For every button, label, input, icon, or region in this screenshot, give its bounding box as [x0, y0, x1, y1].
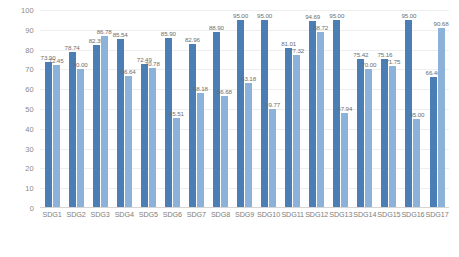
- bar-group-sdg17: 66.4090.68: [425, 10, 449, 208]
- bar-value-label: 71.75: [385, 58, 400, 65]
- bar-value-label: 90.68: [434, 20, 449, 27]
- bar-sdg6-series1: 85.90: [165, 38, 172, 208]
- bar-value-label: 49.77: [265, 101, 280, 108]
- x-axis-tick-sdg9: SDG9: [233, 210, 257, 226]
- y-axis-tick-80: 80: [25, 45, 34, 54]
- bar-value-label: 95.00: [329, 12, 344, 19]
- bar-sdg5-series2: 70.78: [149, 68, 156, 208]
- bar-sdg13-series2: 47.94: [341, 113, 348, 208]
- y-axis-tick-100: 100: [21, 6, 34, 15]
- bar-value-label: 88.90: [209, 24, 224, 31]
- bar-value-label: 63.18: [241, 75, 256, 82]
- bar-group-sdg7: 82.9658.18: [184, 10, 208, 208]
- y-axis-tick-30: 30: [25, 144, 34, 153]
- bar-group-sdg15: 75.1671.75: [377, 10, 401, 208]
- bar-sdg10-series1: 95.00: [261, 20, 268, 208]
- bar-value-label: 58.18: [193, 85, 208, 92]
- x-axis-tick-sdg6: SDG6: [160, 210, 184, 226]
- bar-value-label: 70.00: [73, 61, 88, 68]
- bar-group-sdg6: 85.9045.51: [160, 10, 184, 208]
- bar-value-label: 45.51: [169, 110, 184, 117]
- bar-sdg6-series2: 45.51: [173, 118, 180, 208]
- x-axis-line: [40, 207, 449, 208]
- bar-value-label: 75.42: [353, 51, 368, 58]
- y-axis-tick-0: 0: [30, 204, 34, 213]
- x-axis-tick-labels: SDG1SDG2SDG3SDG4SDG5SDG6SDG7SDG8SDG9SDG1…: [40, 210, 449, 226]
- bar-group-sdg3: 82.3986.78: [88, 10, 112, 208]
- bar-group-sdg13: 95.0047.94: [329, 10, 353, 208]
- bar-value-label: 88.72: [313, 24, 328, 31]
- bar-sdg11-series2: 77.32: [293, 55, 300, 208]
- bar-group-sdg14: 75.4270.00: [353, 10, 377, 208]
- bar-sdg3-series1: 82.39: [93, 45, 100, 208]
- y-axis-tick-90: 90: [25, 25, 34, 34]
- x-axis-tick-sdg11: SDG11: [281, 210, 305, 226]
- bar-sdg8-series1: 88.90: [213, 32, 220, 208]
- bar-sdg17-series1: 66.40: [430, 77, 437, 208]
- bar-sdg2-series2: 70.00: [77, 69, 84, 208]
- y-axis-tick-20: 20: [25, 164, 34, 173]
- bar-value-label: 85.90: [161, 30, 176, 37]
- bar-group-sdg8: 88.9056.68: [208, 10, 232, 208]
- bar-sdg10-series2: 49.77: [269, 109, 276, 208]
- bar-value-label: 85.54: [113, 31, 128, 38]
- bar-group-sdg4: 85.5466.64: [112, 10, 136, 208]
- bar-sdg7-series1: 82.96: [189, 44, 196, 208]
- x-axis-tick-sdg14: SDG14: [353, 210, 377, 226]
- bar-sdg16-series2: 45.00: [413, 119, 420, 208]
- bar-group-sdg2: 78.7470.00: [64, 10, 88, 208]
- bar-sdg13-series1: 95.00: [333, 20, 340, 208]
- bar-sdg2-series1: 78.74: [69, 52, 76, 208]
- bar-value-label: 70.78: [145, 60, 160, 67]
- x-axis-tick-sdg15: SDG15: [377, 210, 401, 226]
- bar-sdg3-series2: 86.78: [101, 36, 108, 208]
- bar-value-label: 78.74: [65, 44, 80, 51]
- bar-sdg17-series2: 90.68: [438, 28, 445, 208]
- x-axis-tick-sdg8: SDG8: [208, 210, 232, 226]
- x-axis-tick-sdg17: SDG17: [425, 210, 449, 226]
- x-axis-tick-sdg1: SDG1: [40, 210, 64, 226]
- bar-group-sdg16: 95.0045.00: [401, 10, 425, 208]
- bar-sdg14-series2: 70.00: [365, 69, 372, 208]
- x-axis-tick-sdg12: SDG12: [305, 210, 329, 226]
- bar-value-label: 82.96: [185, 36, 200, 43]
- bar-group-sdg11: 81.0177.32: [281, 10, 305, 208]
- x-axis-tick-sdg16: SDG16: [401, 210, 425, 226]
- bar-sdg8-series2: 56.68: [221, 96, 228, 208]
- bar-value-label: 81.01: [281, 40, 296, 47]
- bar-group-sdg5: 72.4970.78: [136, 10, 160, 208]
- bar-sdg15-series1: 75.16: [381, 59, 388, 208]
- bar-value-label: 45.00: [409, 111, 424, 118]
- bar-sdg11-series1: 81.01: [285, 48, 292, 208]
- bar-sdg12-series2: 88.72: [317, 32, 324, 208]
- x-axis-tick-sdg13: SDG13: [329, 210, 353, 226]
- bar-sdg5-series1: 72.49: [141, 64, 148, 208]
- bar-sdg1-series1: 73.90: [45, 62, 52, 208]
- bar-value-label: 72.45: [49, 57, 64, 64]
- bar-chart: 0102030405060708090100 73.9072.4578.7470…: [0, 0, 459, 257]
- bar-value-label: 77.32: [289, 47, 304, 54]
- bar-group-sdg10: 95.0049.77: [257, 10, 281, 208]
- bar-value-label: 70.00: [361, 61, 376, 68]
- bar-sdg9-series1: 95.00: [237, 20, 244, 208]
- bar-group-sdg9: 95.0063.18: [233, 10, 257, 208]
- x-axis-tick-sdg4: SDG4: [112, 210, 136, 226]
- y-axis: 0102030405060708090100: [0, 10, 38, 208]
- bar-value-label: 66.64: [121, 68, 136, 75]
- bar-sdg4-series2: 66.64: [125, 76, 132, 208]
- y-axis-tick-70: 70: [25, 65, 34, 74]
- bar-sdg1-series2: 72.45: [53, 65, 60, 208]
- bar-group-sdg1: 73.9072.45: [40, 10, 64, 208]
- y-axis-tick-60: 60: [25, 85, 34, 94]
- x-axis-tick-sdg10: SDG10: [257, 210, 281, 226]
- x-axis-tick-sdg7: SDG7: [184, 210, 208, 226]
- x-axis-tick-sdg5: SDG5: [136, 210, 160, 226]
- y-axis-tick-10: 10: [25, 184, 34, 193]
- bar-value-label: 47.94: [337, 105, 352, 112]
- y-axis-tick-40: 40: [25, 124, 34, 133]
- bar-sdg14-series1: 75.42: [357, 59, 364, 208]
- bar-group-sdg12: 94.6988.72: [305, 10, 329, 208]
- bar-groups: 73.9072.4578.7470.0082.3986.7885.5466.64…: [40, 10, 449, 208]
- bar-value-label: 95.00: [233, 12, 248, 19]
- bar-value-label: 94.69: [305, 13, 320, 20]
